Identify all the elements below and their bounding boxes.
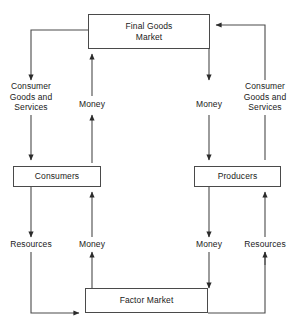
node-consumers[interactable]: Consumers: [13, 166, 101, 187]
flow-arrows-layer: [0, 0, 297, 329]
edge-label-consumer-goods-left: Consumer Goods and Services: [0, 81, 62, 113]
arrow-resources-consumers-to-factor: [31, 252, 79, 313]
node-factor-market-label: Factor Market: [120, 295, 174, 306]
node-producers[interactable]: Producers: [194, 166, 281, 187]
arrow-goods-to-consumers: [31, 30, 88, 80]
edge-label-money-upper-left: Money: [67, 99, 117, 110]
node-final-goods-market[interactable]: Final Goods Market: [88, 14, 210, 49]
edge-label-money-upper-right: Money: [184, 99, 234, 110]
edge-label-consumer-goods-right: Consumer Goods and Services: [234, 81, 296, 113]
node-factor-market[interactable]: Factor Market: [85, 288, 208, 313]
arrow-goods-producers-to-market: [216, 25, 265, 80]
node-producers-label: Producers: [218, 171, 258, 182]
edge-label-money-lower-left: Money: [67, 239, 117, 250]
node-final-goods-market-label: Final Goods Market: [126, 21, 173, 42]
circular-flow-diagram: Final Goods Market Consumers Producers F…: [0, 0, 297, 329]
edge-label-resources-left: Resources: [0, 239, 62, 250]
node-consumers-label: Consumers: [35, 171, 79, 182]
edge-label-resources-right: Resources: [234, 239, 296, 250]
edge-label-money-lower-right: Money: [184, 239, 234, 250]
line-resources-factor-to-producers-base: [208, 252, 265, 313]
